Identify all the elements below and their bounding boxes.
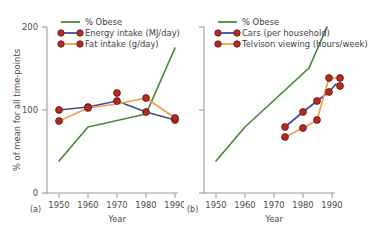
legend-marker [234, 30, 240, 36]
legend-marker [77, 30, 83, 36]
data-point [282, 124, 289, 131]
legend-label-energy-a: Energy intake (MJ/day) [85, 28, 180, 38]
legend-a: % Obese Energy intake (MJ/day) Fat intak… [58, 17, 180, 49]
data-point [114, 98, 121, 105]
x-tick-label-1970-a: 1970 [106, 200, 127, 210]
panel-b-axes [199, 27, 335, 198]
figure-container: 200 100 0 1950 1960 1970 1980 1990 Year … [0, 0, 368, 229]
y-tick-label-200-a: 200 [22, 22, 38, 32]
x-tick-label-1990-b: 1990 [321, 200, 342, 210]
data-point [56, 118, 63, 125]
legend-label-fat-a: Fat intake (g/day) [85, 39, 159, 49]
data-point [172, 115, 179, 122]
x-axis-title-b: Year [264, 214, 283, 224]
data-point [143, 95, 150, 102]
panel-a-axes [42, 27, 178, 198]
data-point [143, 109, 150, 116]
data-point [337, 75, 344, 82]
data-point [282, 134, 289, 141]
series-energy-markers-a [56, 98, 179, 124]
y-axis-title-a: % of mean for all time-points [12, 49, 22, 171]
legend-marker [234, 41, 240, 47]
legend-label-cars-b: Cars (per household) [242, 28, 330, 38]
x-tick-label-1960-b: 1960 [234, 200, 255, 210]
panel-a-svg: 200 100 0 1950 1960 1970 1980 1990 Year … [0, 0, 184, 229]
legend-marker [215, 30, 221, 36]
legend-label-obese-b: % Obese [242, 17, 279, 27]
data-point [85, 105, 92, 112]
legend-marker [215, 41, 221, 47]
x-tick-label-1960-a: 1960 [77, 200, 98, 210]
x-tick-label-1950-b: 1950 [205, 200, 226, 210]
data-point [337, 83, 344, 90]
data-point [314, 117, 321, 124]
x-tick-label-1950-a: 1950 [48, 200, 69, 210]
panel-label-b: (b) [187, 205, 198, 214]
panel-label-a: (a) [30, 205, 41, 214]
chart-panel-b: 1950 1960 1970 1980 1990 Year (b) [184, 0, 368, 229]
series-tv-line-b [285, 78, 340, 137]
data-point [326, 89, 333, 96]
data-point [300, 125, 307, 132]
legend-label-tv-b: Telvison viewing (hours/week) [241, 39, 368, 49]
x-tick-label-1970-b: 1970 [263, 200, 284, 210]
x-axis-title-a: Year [107, 214, 126, 224]
legend-marker [58, 30, 64, 36]
y-tick-label-100-a: 100 [22, 105, 38, 115]
data-point [314, 98, 321, 105]
legend-b: % Obese Cars (per household) Telvison vi… [215, 17, 368, 49]
data-point [300, 109, 307, 116]
x-tick-label-1980-a: 1980 [135, 200, 156, 210]
data-point [326, 75, 333, 82]
x-tick-label-1980-b: 1980 [292, 200, 313, 210]
legend-label-obese-a: % Obese [85, 17, 122, 27]
panel-b-svg: 1950 1960 1970 1980 1990 Year (b) [184, 0, 368, 229]
data-point [56, 107, 63, 114]
legend-marker [77, 41, 83, 47]
legend-marker [58, 41, 64, 47]
x-tick-label-1990-a: 1990 [164, 200, 184, 210]
data-point [114, 90, 121, 97]
chart-panel-a: 200 100 0 1950 1960 1970 1980 1990 Year … [0, 0, 184, 229]
y-tick-label-0-a: 0 [33, 188, 38, 198]
